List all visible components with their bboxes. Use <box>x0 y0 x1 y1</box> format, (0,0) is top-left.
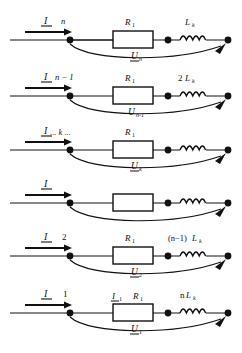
node-right-row-2 <box>225 253 232 260</box>
voltage-sub-row-2: 2 <box>139 272 142 278</box>
resistor-label-row-n: R <box>124 17 131 27</box>
inductor-prefix-row-n-minus-1: 2 <box>178 73 183 83</box>
resistor-label-row-n-minus-1: R <box>124 73 131 83</box>
resistor-body-row-k <box>113 141 153 158</box>
inductor-prefix-row-1: n <box>180 290 185 300</box>
branch-index-row-1: 1 <box>63 289 68 299</box>
resistor-body-row-ellipsis <box>113 194 153 211</box>
resistor-sub-row-n: 1 <box>132 22 135 28</box>
node-left-row-n-minus-1 <box>67 93 74 100</box>
inductor-sub-row-n-minus-1: k <box>192 78 195 84</box>
resistor-sub-row-1: 1 <box>140 296 143 302</box>
voltage-label-row-n: U <box>131 51 139 61</box>
voltage-sub-row-1: 1 <box>139 329 142 335</box>
node-mid-row-ellipsis <box>165 200 172 207</box>
voltage-sub-row-k: k <box>139 166 142 172</box>
voltage-sub-row-n-minus-1: n-1 <box>136 112 144 118</box>
inductor-sub-row-1: k <box>193 295 196 301</box>
inductor-sub-row-n: k <box>192 22 195 28</box>
voltage-label-row-2: U <box>131 267 139 277</box>
node-right-row-1 <box>225 310 232 317</box>
inductor-sub-row-2: k <box>199 238 202 244</box>
node-right-row-k <box>225 147 232 154</box>
circuit-diagram-canvas: I n R 1 L k U n I <box>0 0 242 353</box>
current-label-row-ellipsis: I <box>43 178 48 189</box>
node-left-row-1 <box>67 310 74 317</box>
node-mid-row-1 <box>165 310 172 317</box>
inductor-label-row-n: L <box>184 17 190 27</box>
node-left-row-2 <box>67 253 74 260</box>
branch-index-row-n: n <box>61 16 65 26</box>
branch-index-row-k: ... k ... <box>50 127 71 137</box>
resistor-body-row-1 <box>113 304 153 321</box>
voltage-label-row-1: U <box>131 324 139 334</box>
node-mid-row-n <box>165 37 172 44</box>
branch-index-row-2: 2 <box>62 232 67 242</box>
node-mid-row-2 <box>165 253 172 260</box>
inductor-label-row-1: L <box>185 290 191 300</box>
resistor-body-row-n-minus-1 <box>113 87 153 104</box>
resistor-label-row-k: R <box>124 127 131 137</box>
node-right-row-ellipsis <box>225 200 232 207</box>
resistor-body-row-2 <box>113 247 153 264</box>
voltage-label-row-n-minus-1: U <box>128 107 136 117</box>
resistor-body-row-n <box>113 31 153 48</box>
inductor-prefix-row-2: (n−1) <box>168 233 187 243</box>
current-label-row-1: I <box>43 288 48 299</box>
branch-current-sub-row-1: 1 <box>119 296 122 302</box>
current-label-row-n-minus-1: I <box>43 71 48 82</box>
node-right-row-n-minus-1 <box>225 93 232 100</box>
voltage-sub-row-n: n <box>139 56 142 62</box>
resistor-label-row-1: R <box>132 291 139 301</box>
current-label-row-n: I <box>43 15 48 26</box>
current-label-row-2: I <box>43 231 48 242</box>
voltage-label-row-k: U <box>131 161 139 171</box>
resistor-sub-row-n-minus-1: 1 <box>132 78 135 84</box>
resistor-sub-row-2: 1 <box>132 238 135 244</box>
current-label-row-k: I <box>43 125 48 136</box>
node-right-row-n <box>225 37 232 44</box>
node-left-row-k <box>67 147 74 154</box>
resistor-sub-row-k: 1 <box>132 132 135 138</box>
node-left-row-ellipsis <box>67 200 74 207</box>
branch-index-row-n-minus-1: n − 1 <box>55 72 74 82</box>
resistor-label-row-2: R <box>124 233 131 243</box>
node-mid-row-k <box>165 147 172 154</box>
inductor-label-row-2: L <box>191 233 197 243</box>
inductor-label-row-n-minus-1: L <box>184 73 190 83</box>
node-mid-row-n-minus-1 <box>165 93 172 100</box>
